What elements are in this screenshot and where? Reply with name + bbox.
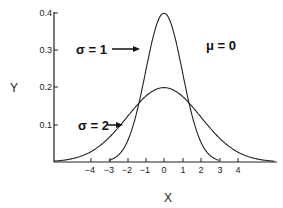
arrow-right-icon [112, 46, 140, 52]
mu-label: μ = 0 [206, 38, 236, 53]
arrow-right-icon [108, 122, 123, 128]
x-tick-label: 0 [161, 165, 166, 175]
x-tick-label: −1 [140, 165, 150, 175]
y-tick-label: 0.2 [39, 82, 52, 92]
x-tick-label: −2 [122, 165, 132, 175]
y-ticks: 0.4 0.3 0.2 0.1 [39, 8, 58, 130]
x-tick-label: 4 [235, 165, 240, 175]
y-tick-label: 0.1 [39, 120, 52, 130]
curve-sigma-1 [109, 13, 219, 160]
x-ticks: −4 −3 −2 −1 0 1 2 3 4 [85, 158, 241, 175]
sigma-1-label: σ = 1 [76, 42, 107, 57]
x-tick-label: 2 [198, 165, 203, 175]
y-axis-label: Y [10, 81, 18, 95]
x-tick-label: −3 [104, 165, 114, 175]
normal-distribution-chart: 0.4 0.3 0.2 0.1 −4 −3 −2 −1 0 1 2 3 4 Y … [0, 0, 283, 208]
y-tick-label: 0.4 [39, 8, 52, 18]
x-tick-label: −4 [85, 165, 95, 175]
x-tick-label: 1 [180, 165, 185, 175]
y-tick-label: 0.3 [39, 45, 52, 55]
x-axis-label: X [164, 191, 172, 205]
sigma-2-label: σ = 2 [78, 118, 109, 133]
x-tick-label: 3 [217, 165, 222, 175]
